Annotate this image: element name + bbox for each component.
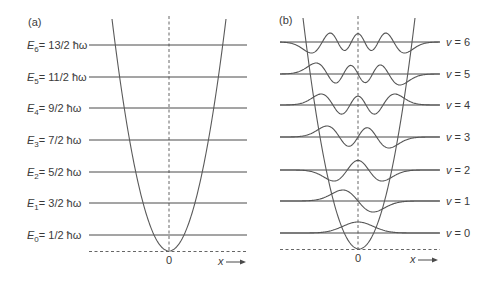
panel-b-potential-parabola [303,18,415,249]
wavefunction-curve [280,160,440,181]
energy-level-label: E6= 13/2 ħω [27,39,88,54]
panel-b: (b) v = 6v = 5v = 4v = 3v = 2v = 1v = 0 … [279,14,470,265]
panel-a-origin-label: 0 [166,254,172,266]
energy-level-label: E1= 3/2 ħω [27,197,82,212]
panel-b-label: (b) [279,14,292,26]
panel-a-energy-levels: E6= 13/2 ħωE5= 11/2 ħωE4= 9/2 ħωE3= 7/2 … [27,39,247,244]
energy-level-label: E5= 11/2 ħω [27,71,87,86]
panel-b-x-label: x [409,253,416,265]
wavefunction-curve [280,94,440,114]
harmonic-oscillator-figure: (a) E6= 13/2 ħωE5= 11/2 ħωE4= 9/2 ħωE3= … [0,0,483,287]
energy-level-label: E2= 5/2 ħω [27,166,82,181]
panel-b-wavefunctions [280,33,440,233]
arrow-right-icon [226,260,246,265]
vibrational-level-label: v = 3 [446,131,470,143]
panel-b-origin-label: 0 [355,252,361,264]
vibrational-level-label: v = 1 [446,195,470,207]
arrow-right-icon [418,258,438,263]
panel-a-label: (a) [28,16,41,28]
panel-a: (a) E6= 13/2 ħωE5= 11/2 ħωE4= 9/2 ħωE3= … [27,16,247,267]
panel-a-x-label: x [217,255,224,267]
wavefunction-curve [280,33,440,53]
vibrational-level-label: v = 0 [446,227,470,239]
wavefunction-curve [280,222,440,233]
energy-level-label: E3= 7/2 ħω [27,134,82,149]
vibrational-level-label: v = 5 [446,68,470,80]
vibrational-level-label: v = 6 [446,36,470,48]
vibrational-level-label: v = 2 [446,164,470,176]
energy-level-label: E0= 1/2 ħω [27,229,82,244]
energy-level-label: E4= 9/2 ħω [27,102,82,117]
vibrational-level-label: v = 4 [446,99,470,111]
